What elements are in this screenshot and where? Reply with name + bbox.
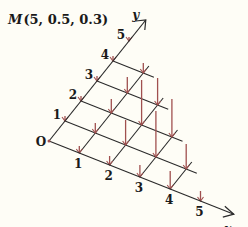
arrow <box>140 63 146 73</box>
arrow <box>124 77 130 93</box>
grid-line-y1 <box>65 121 197 173</box>
arrow <box>198 191 204 201</box>
y-tick-label: 5 <box>117 28 125 42</box>
arrow <box>167 171 173 189</box>
y-tick-label: 3 <box>85 68 93 82</box>
grid-line-x2 <box>110 98 164 165</box>
origin-label: O <box>36 135 46 149</box>
x-axis <box>49 141 234 214</box>
grid-line-y2 <box>81 101 183 141</box>
grid-line-y4 <box>113 61 154 77</box>
x-tick-label: 3 <box>135 181 143 195</box>
x-tick-label: 5 <box>195 205 203 219</box>
arrow <box>183 144 189 169</box>
y-axis-label: y <box>131 8 140 22</box>
arrow <box>139 80 145 125</box>
origin-dot <box>48 140 51 143</box>
vector-field-diagram: M(5, 0.5, 0.3) 1234512345Oxy <box>0 0 248 227</box>
x-tick-label: 2 <box>104 169 112 183</box>
y-tick-label: 2 <box>69 88 77 102</box>
x-tick-label: 4 <box>165 193 173 207</box>
arrow <box>108 99 114 113</box>
y-tick-label: 1 <box>53 108 61 122</box>
arrow <box>155 78 161 105</box>
arrow <box>153 111 159 157</box>
x-axis-label: x <box>223 222 232 227</box>
vertical-arrows <box>62 37 204 201</box>
point-label: M(5, 0.5, 0.3) <box>7 12 108 27</box>
arrow <box>92 123 98 133</box>
arrow <box>123 120 129 145</box>
y-axis <box>49 20 146 141</box>
y-tick-label: 4 <box>101 48 109 62</box>
x-tick-label: 1 <box>74 157 82 171</box>
arrow <box>169 99 175 137</box>
